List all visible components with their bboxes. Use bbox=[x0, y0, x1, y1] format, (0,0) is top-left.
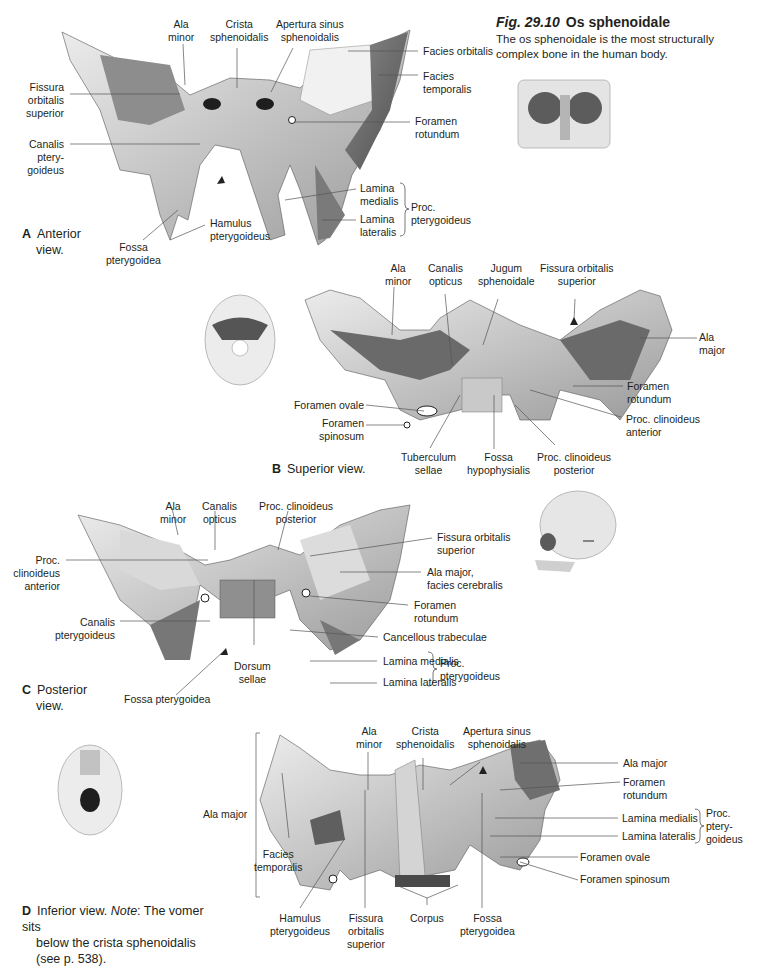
illustrations-layer bbox=[0, 0, 760, 972]
label-a-hamulus: Hamuluspterygoideus bbox=[210, 217, 270, 243]
label-a-fossa-pterygoidea: Fossapterygoidea bbox=[106, 241, 161, 267]
label-b-fossa-hypophysialis: Fossahypophysialis bbox=[467, 451, 530, 477]
label-c-cancellous-trabeculae: Cancellous trabeculae bbox=[383, 631, 487, 644]
label-d-hamulus: Hamuluspterygoideus bbox=[270, 912, 330, 938]
label-c-fissura-orbitalis: Fissura orbitalissuperior bbox=[437, 531, 511, 557]
label-d-fossa-pterygoidea: Fossapterygoidea bbox=[460, 912, 515, 938]
label-d-lamina-lateralis: Lamina lateralis bbox=[622, 830, 696, 843]
label-d-foramen-spinosum: Foramen spinosum bbox=[580, 873, 670, 886]
label-d-proc-pterygoideus: Proc.ptery-goideus bbox=[706, 807, 743, 846]
label-c-ala-major-facies-cerebralis: Ala major,facies cerebralis bbox=[427, 566, 503, 592]
figure-description: The os sphenoidale is the most structura… bbox=[496, 32, 746, 62]
label-c-canalis-opticus: Canalisopticus bbox=[202, 500, 237, 526]
label-a-ala-minor: Alaminor bbox=[168, 18, 194, 44]
label-b-tuberculum-sellae: Tuberculumsellae bbox=[401, 451, 456, 477]
figure-title: Fig. 29.10Os sphenoidale bbox=[496, 14, 670, 30]
label-b-canalis-opticus: Canalisopticus bbox=[428, 262, 463, 288]
label-a-proc-pterygoideus: Proc.pterygoideus bbox=[411, 201, 471, 227]
label-a-apertura-sinus: Apertura sinussphenoidalis bbox=[276, 18, 344, 44]
label-a-lamina-medialis: Laminamedialis bbox=[360, 182, 399, 208]
figure-number: Fig. 29.10 bbox=[496, 14, 560, 30]
label-d-ala-major-left: Ala major bbox=[203, 808, 247, 821]
label-a-facies-temporalis: Faciestemporalis bbox=[423, 70, 471, 96]
label-b-foramen-rotundum: Foramenrotundum bbox=[627, 380, 671, 406]
caption-panel-d: DInferior view. Note: The vomer sits bel… bbox=[22, 903, 222, 967]
label-b-ala-major: Alamajor bbox=[699, 331, 725, 357]
caption-panel-a: AAnteriorview. bbox=[22, 226, 81, 258]
panel-a-bone-illustration bbox=[62, 30, 410, 245]
label-b-ala-minor: Alaminor bbox=[385, 262, 411, 288]
panel-b-thumbnail bbox=[205, 295, 275, 385]
label-c-fossa-pterygoidea: Fossa pterygoidea bbox=[124, 693, 210, 706]
label-b-foramen-spinosum: Foramenspinosum bbox=[300, 417, 364, 443]
label-c-foramen-rotundum: Foramenrotundum bbox=[414, 599, 458, 625]
label-d-lamina-medialis: Lamina medialis bbox=[622, 812, 698, 825]
caption-panel-b: BSuperior view. bbox=[272, 461, 366, 477]
label-b-proc-clinoideus-posterior: Proc. clinoideusposterior bbox=[537, 451, 611, 477]
label-d-ala-major-right: Ala major bbox=[623, 757, 667, 770]
caption-panel-c: CPosteriorview. bbox=[22, 682, 87, 714]
label-b-fissura-orbitalis: Fissura orbitalissuperior bbox=[540, 262, 614, 288]
label-c-proc-clinoideus-posterior: Proc. clinoideusposterior bbox=[259, 500, 333, 526]
arrow-icon bbox=[570, 317, 578, 325]
panel-a-thumbnail bbox=[518, 80, 610, 148]
label-c-canalis-pterygoideus: Canalispterygoideus bbox=[40, 616, 115, 642]
label-d-apertura-sinus: Apertura sinussphenoidalis bbox=[463, 725, 531, 751]
panel-d-thumbnail bbox=[58, 745, 122, 835]
label-c-proc-clinoideus-anterior: Proc.clinoideusanterior bbox=[10, 554, 60, 593]
label-d-facies-temporalis: Faciestemporalis bbox=[254, 848, 302, 874]
label-d-foramen-rotundum: Foramenrotundum bbox=[623, 776, 667, 802]
label-c-proc-pterygoideus: Proc.pterygoideus bbox=[440, 657, 500, 683]
label-c-dorsum-sellae: Dorsumsellae bbox=[234, 660, 271, 686]
panel-c-bone-illustration bbox=[78, 505, 410, 660]
label-b-proc-clinoideus-anterior: Proc. clinoideusanterior bbox=[626, 413, 700, 439]
arrow-icon bbox=[217, 176, 225, 184]
label-d-fissura-orbitalis: Fissuraorbitalissuperior bbox=[347, 912, 385, 951]
label-b-foramen-ovale: Foramen ovale bbox=[290, 399, 364, 412]
figure-title-text: Os sphenoidale bbox=[566, 14, 670, 30]
arrow-icon bbox=[220, 648, 228, 655]
label-a-canalis-pterygoideus: Canalisptery-goideus bbox=[20, 138, 64, 177]
panel-d-bone-illustration bbox=[260, 735, 560, 890]
label-b-jugum-sphenoidale: Jugumsphenoidale bbox=[478, 262, 535, 288]
label-a-foramen-rotundum: Foramenrotundum bbox=[415, 115, 459, 141]
panel-c-thumbnail bbox=[535, 491, 616, 572]
label-d-foramen-ovale: Foramen ovale bbox=[580, 851, 650, 864]
label-d-ala-minor: Alaminor bbox=[356, 725, 382, 751]
label-a-fissura-orbitalis: Fissuraorbitalissuperior bbox=[20, 81, 64, 120]
label-c-ala-minor: Alaminor bbox=[160, 500, 186, 526]
label-a-facies-orbitalis: Facies orbitalis bbox=[423, 45, 493, 58]
label-d-corpus: Corpus bbox=[410, 912, 444, 925]
label-d-crista-sphenoidalis: Cristasphenoidalis bbox=[396, 725, 454, 751]
label-a-crista-sphenoidalis: Cristasphenoidalis bbox=[210, 18, 268, 44]
label-a-lamina-lateralis: Laminalateralis bbox=[360, 213, 396, 239]
